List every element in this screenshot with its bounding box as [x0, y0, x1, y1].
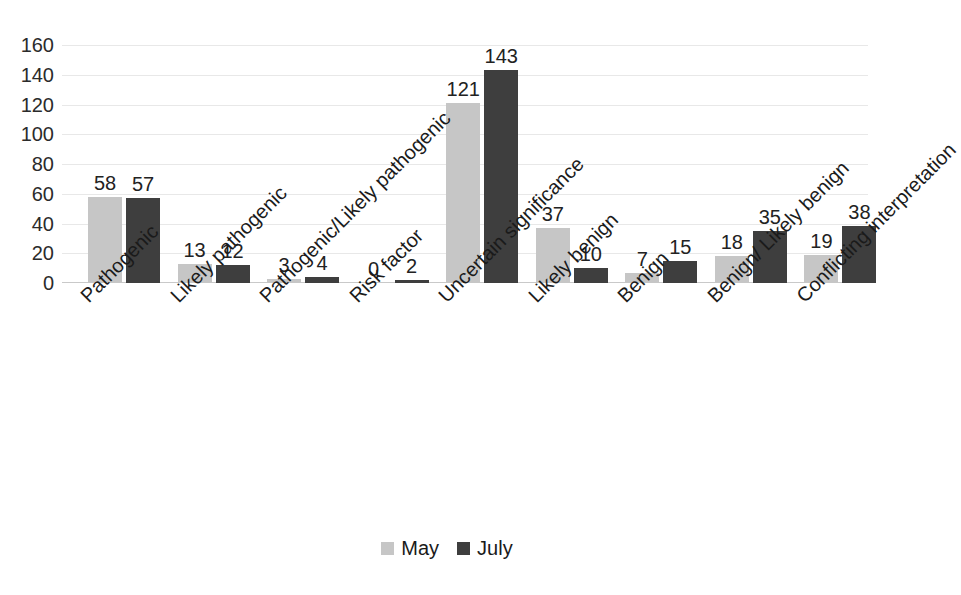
bar-value-label: 121	[440, 79, 486, 99]
legend-swatch-icon	[457, 542, 470, 555]
legend-swatch-icon	[381, 542, 394, 555]
y-tick-label: 140	[21, 65, 54, 85]
x-label-wrap: Benign	[613, 291, 675, 315]
x-axis-category-labels: PathogenicLikely pathogenicPathogenic/Li…	[62, 283, 868, 498]
y-tick-label: 40	[32, 214, 54, 234]
bar-july	[574, 268, 608, 283]
bar-value-label: 143	[478, 46, 524, 66]
x-label-wrap: Risk factor	[345, 291, 439, 315]
bar-july	[216, 265, 250, 283]
chart-legend: MayJuly	[0, 538, 894, 558]
x-label-wrap: Conflicting interpretation	[792, 291, 961, 315]
y-tick-label: 60	[32, 184, 54, 204]
x-label-wrap: Pathogenic	[76, 291, 176, 315]
y-tick-label: 20	[32, 243, 54, 263]
y-tick-label: 160	[21, 35, 54, 55]
y-tick-label: 120	[21, 95, 54, 115]
y-tick-label: 100	[21, 124, 54, 144]
legend-label: May	[401, 538, 439, 558]
y-axis: 160140120100806040200	[0, 0, 62, 595]
legend-item-may[interactable]: May	[381, 538, 439, 558]
y-tick-label: 0	[43, 273, 54, 293]
bar-value-label: 57	[120, 174, 166, 194]
legend-label: July	[477, 538, 513, 558]
legend-item-july[interactable]: July	[457, 538, 513, 558]
y-tick-label: 80	[32, 154, 54, 174]
bar-group: 715	[621, 45, 711, 283]
